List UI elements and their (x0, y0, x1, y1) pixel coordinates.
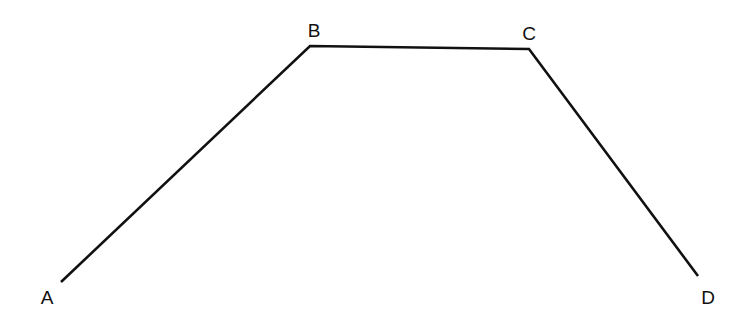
point-label-b: B (308, 21, 321, 40)
point-label-a: A (41, 288, 54, 307)
point-label-d: D (701, 288, 715, 307)
polyline-figure (0, 0, 752, 332)
point-label-c: C (522, 24, 536, 43)
diagram-canvas: A B C D (0, 0, 752, 332)
path-abcd (61, 46, 698, 282)
